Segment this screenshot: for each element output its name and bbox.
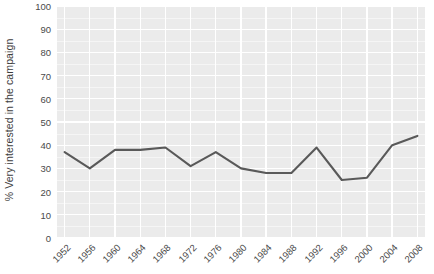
y-axis-tick-label: 20 bbox=[40, 186, 51, 197]
y-axis-tick-labels: 0102030405060708090100 bbox=[18, 6, 54, 238]
y-axis-tick-label: 50 bbox=[40, 117, 51, 128]
line-chart: % Very interested in the campaign 010203… bbox=[0, 0, 434, 274]
data-series-line bbox=[57, 6, 425, 238]
plot-panel bbox=[57, 6, 425, 238]
y-axis-tick-label: 40 bbox=[40, 140, 51, 151]
y-axis-tick-label: 70 bbox=[40, 70, 51, 81]
y-axis-tick-label: 60 bbox=[40, 93, 51, 104]
y-axis-tick-label: 80 bbox=[40, 47, 51, 58]
y-axis-title-label: % Very interested in the campaign bbox=[3, 39, 15, 202]
y-axis-title: % Very interested in the campaign bbox=[0, 0, 18, 240]
x-axis-tick-labels: 1952195619601964196819721976198019841988… bbox=[57, 238, 425, 274]
y-axis-tick-label: 0 bbox=[46, 233, 51, 244]
y-axis-tick-label: 30 bbox=[40, 163, 51, 174]
y-axis-tick-label: 10 bbox=[40, 209, 51, 220]
y-axis-tick-label: 90 bbox=[40, 24, 51, 35]
y-axis-tick-label: 100 bbox=[35, 1, 51, 12]
